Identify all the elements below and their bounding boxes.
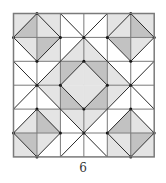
quilt-pattern-figure (0, 0, 166, 183)
figure-caption: 6 (0, 161, 166, 175)
